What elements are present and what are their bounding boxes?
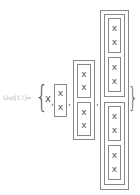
framed-box-level-1: x x — [108, 57, 121, 92]
leaf-symbol: x — [112, 63, 117, 72]
leaf-symbol: x — [58, 103, 63, 112]
leaf-symbol: x — [81, 70, 86, 79]
framed-box-level-1: x x — [108, 106, 121, 141]
framed-box-level-1: x x — [108, 145, 121, 180]
comma: , — [96, 98, 99, 107]
leaf-symbol: x — [81, 83, 86, 92]
leaf-symbol: x — [81, 121, 86, 130]
framed-box-level-2: x x x x — [73, 60, 95, 140]
leaf-symbol: x — [112, 38, 117, 47]
output-label: Out[17]= — [3, 94, 32, 101]
close-brace: } — [128, 84, 138, 110]
leaf-symbol: x — [112, 126, 117, 135]
leaf-symbol: x — [58, 89, 63, 98]
framed-box-level-2: x x x x — [104, 14, 125, 97]
framed-box-level-1: x x — [77, 64, 91, 98]
framed-box-level-2: x x x x — [104, 102, 125, 185]
leaf-symbol: x — [81, 108, 86, 117]
leaf-symbol: x — [112, 151, 117, 160]
framed-box-level-1: x x — [54, 84, 67, 117]
comma: , — [68, 98, 71, 107]
framed-box-level-3: x x x x x x x x — [100, 10, 129, 190]
leaf-symbol: x — [112, 24, 117, 33]
leaf-symbol: x — [112, 112, 117, 121]
leaf-symbol: x — [112, 165, 117, 174]
framed-box-level-1: x x — [77, 102, 91, 136]
framed-box-level-1: x x — [108, 18, 121, 53]
leaf-symbol: x — [112, 77, 117, 86]
